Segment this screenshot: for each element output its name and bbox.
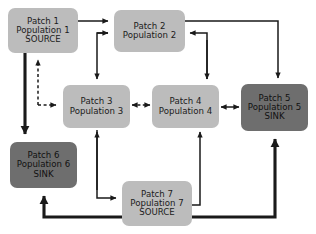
node-patch-3[interactable]: Patch 3 Population 3 bbox=[63, 85, 130, 128]
patch-7-role-label: SOURCE bbox=[139, 208, 174, 217]
patch-1-role-label: SOURCE bbox=[25, 35, 60, 44]
patch-6-role-label: SINK bbox=[33, 170, 53, 179]
edge-patch2-to-patch5 bbox=[185, 21, 278, 78]
patch-4-population-label: Population 4 bbox=[159, 107, 212, 116]
patch-2-population-label: Population 2 bbox=[123, 31, 176, 40]
edge-patch7-to-patch4 bbox=[192, 132, 200, 205]
node-patch-1[interactable]: Patch 1 Population 1 SOURCE bbox=[8, 8, 78, 53]
node-patch-2[interactable]: Patch 2 Population 2 bbox=[114, 10, 185, 52]
edge-patch3-to-patch7 bbox=[97, 130, 116, 198]
patch-3-population-label: Population 3 bbox=[70, 107, 123, 116]
node-patch-7[interactable]: Patch 7 Population 7 SOURCE bbox=[122, 181, 192, 226]
node-patch-4[interactable]: Patch 4 Population 4 bbox=[152, 85, 219, 128]
node-patch-5[interactable]: Patch 5 Population 5 SINK bbox=[241, 84, 308, 131]
edge-patch7-to-patch6-thick bbox=[44, 196, 124, 217]
edge-patch4-to-patch2 bbox=[190, 33, 207, 79]
edge-patch2-to-patch3 bbox=[97, 33, 108, 79]
edge-patch7-to-patch5-thick bbox=[192, 139, 275, 217]
node-patch-6[interactable]: Patch 6 Population 6 SINK bbox=[10, 142, 77, 188]
patch-network-diagram: Patch 1 Population 1 SOURCE Patch 2 Popu… bbox=[0, 0, 316, 234]
patch-5-role-label: SINK bbox=[264, 112, 284, 121]
